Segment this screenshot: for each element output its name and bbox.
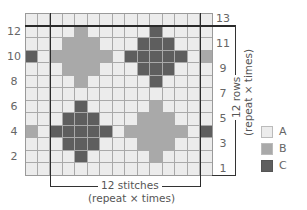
stitch-cell bbox=[63, 163, 76, 176]
stitch-cell bbox=[38, 13, 51, 26]
stitch-cell bbox=[188, 113, 201, 126]
legend-label-a: A bbox=[279, 125, 287, 138]
stitch-cell bbox=[200, 76, 213, 89]
stitch-cell bbox=[75, 163, 88, 176]
stitch-cell bbox=[88, 101, 101, 114]
stitch-cell bbox=[88, 38, 101, 51]
stitch-cell bbox=[75, 138, 88, 151]
stitch-cell bbox=[138, 13, 151, 26]
stitch-cell bbox=[25, 38, 38, 51]
stitch-cell bbox=[150, 151, 163, 164]
stitch-cell bbox=[113, 163, 126, 176]
stitch-cell bbox=[88, 163, 101, 176]
stitch-cell bbox=[125, 151, 138, 164]
stitch-cell bbox=[138, 113, 151, 126]
stitch-cell bbox=[25, 63, 38, 76]
stitch-cell bbox=[200, 163, 213, 176]
stitch-cell bbox=[88, 138, 101, 151]
stitch-cell bbox=[100, 101, 113, 114]
repeat-top-line bbox=[25, 25, 236, 27]
stitch-cell bbox=[138, 63, 151, 76]
stitch-cell bbox=[188, 13, 201, 26]
stitch-cell bbox=[163, 101, 176, 114]
stitch-cell bbox=[88, 26, 101, 39]
stitch-cell bbox=[163, 26, 176, 39]
stitch-cell bbox=[113, 38, 126, 51]
stitch-cell bbox=[88, 63, 101, 76]
stitch-cell bbox=[63, 38, 76, 51]
stitch-cell bbox=[25, 138, 38, 151]
stitch-cell bbox=[175, 51, 188, 64]
stitch-cell bbox=[175, 113, 188, 126]
stitch-cell bbox=[150, 26, 163, 39]
stitch-cell bbox=[25, 126, 38, 139]
stitch-cell bbox=[200, 151, 213, 164]
stitch-cell bbox=[25, 26, 38, 39]
stitch-cell bbox=[200, 138, 213, 151]
stitch-cell bbox=[88, 113, 101, 126]
stitch-cell bbox=[150, 113, 163, 126]
row-label-8: 8 bbox=[6, 76, 22, 88]
stitch-cell bbox=[188, 38, 201, 51]
stitch-cell bbox=[100, 38, 113, 51]
stitch-cell bbox=[100, 51, 113, 64]
stitch-cell bbox=[125, 88, 138, 101]
stitch-cell bbox=[175, 76, 188, 89]
stitch-cell bbox=[138, 138, 151, 151]
stitch-cell bbox=[188, 63, 201, 76]
stitch-cell bbox=[138, 163, 151, 176]
stitch-cell bbox=[188, 126, 201, 139]
rows-label: 12 rows bbox=[230, 75, 242, 120]
stitch-cell bbox=[100, 88, 113, 101]
stitch-cell bbox=[163, 88, 176, 101]
stitch-cell bbox=[125, 63, 138, 76]
stitch-cell bbox=[100, 138, 113, 151]
rows-bracket-bottom bbox=[212, 175, 236, 176]
stitch-cell bbox=[125, 76, 138, 89]
stitch-cell bbox=[113, 151, 126, 164]
stitch-cell bbox=[50, 113, 63, 126]
stitch-cell bbox=[38, 151, 51, 164]
row-label-3: 3 bbox=[215, 138, 231, 150]
stitch-cell bbox=[25, 88, 38, 101]
stitch-cell bbox=[100, 26, 113, 39]
row-label-6: 6 bbox=[6, 101, 22, 113]
stitch-cell bbox=[200, 63, 213, 76]
stitch-cell bbox=[88, 88, 101, 101]
row-label-9: 9 bbox=[215, 63, 231, 75]
stitch-cell bbox=[113, 88, 126, 101]
stitch-cell bbox=[150, 88, 163, 101]
stitch-cell bbox=[25, 113, 38, 126]
stitch-cell bbox=[163, 138, 176, 151]
stitches-label: 12 stitches bbox=[98, 179, 162, 191]
stitch-cell bbox=[175, 138, 188, 151]
stitch-cell bbox=[138, 126, 151, 139]
stitch-cell bbox=[75, 88, 88, 101]
stitch-cell bbox=[113, 126, 126, 139]
stitch-cell bbox=[25, 151, 38, 164]
row-label-10: 10 bbox=[6, 51, 22, 63]
stitch-cell bbox=[175, 13, 188, 26]
stitch-cell bbox=[38, 113, 51, 126]
stitch-cell bbox=[200, 26, 213, 39]
stitch-cell bbox=[188, 26, 201, 39]
stitch-cell bbox=[113, 63, 126, 76]
legend-label-b: B bbox=[279, 142, 287, 155]
stitch-cell bbox=[163, 38, 176, 51]
stitch-grid bbox=[25, 13, 213, 176]
stitch-cell bbox=[125, 38, 138, 51]
stitch-cell bbox=[175, 38, 188, 51]
stitch-cell bbox=[75, 13, 88, 26]
stitch-cell bbox=[175, 63, 188, 76]
stitch-cell bbox=[200, 126, 213, 139]
stitch-cell bbox=[75, 126, 88, 139]
stitch-cell bbox=[200, 88, 213, 101]
stitch-cell bbox=[75, 76, 88, 89]
stitch-cell bbox=[75, 151, 88, 164]
stitch-cell bbox=[113, 26, 126, 39]
stitch-cell bbox=[38, 38, 51, 51]
stitch-cell bbox=[38, 163, 51, 176]
stitch-cell bbox=[150, 126, 163, 139]
stitch-cell bbox=[200, 38, 213, 51]
stitch-cell bbox=[138, 38, 151, 51]
